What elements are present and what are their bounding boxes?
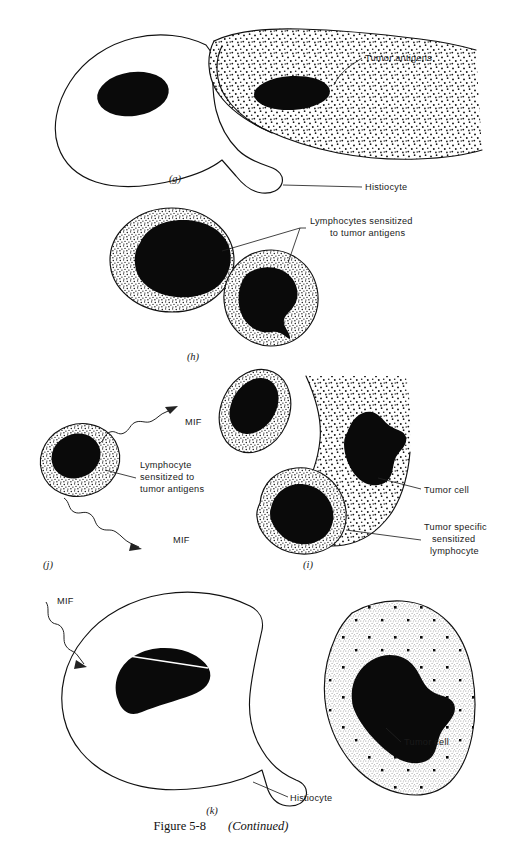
panel-j-mif-arrowhead-upper <box>165 406 178 414</box>
panel-g-histiocyte-leader <box>283 185 362 187</box>
panel-h-leader-1 <box>222 228 300 251</box>
label-tumor-cell-i: Tumor cell <box>424 485 469 495</box>
panel-j-mif-arrowhead-lower <box>129 543 142 551</box>
label-lymphocyte-sensitized-line2: sensitized to <box>140 472 194 482</box>
panel-g-tumor-cytoplasm <box>200 20 500 170</box>
panel-letter-k: (k) <box>206 805 218 817</box>
caption-continued: (Continued) <box>228 819 288 833</box>
panel-k: MIF Tumor cell Histiocyte (k) <box>46 592 480 817</box>
label-tumor-specific-line1: Tumor specific <box>424 522 487 532</box>
label-lymphocytes-sensitized-line2: to tumor antigens <box>330 228 405 238</box>
label-tumor-antigens: Tumor antigens <box>365 53 432 63</box>
label-mif-k: MIF <box>57 596 74 606</box>
panel-j-mif-arrow-lower <box>64 498 139 547</box>
panel-i: Tumor cell Tumor specific sensitized lym… <box>206 358 487 571</box>
label-mif-lower: MIF <box>173 535 190 545</box>
label-lymphocytes-sensitized-line1: Lymphocytes sensitized <box>310 216 413 226</box>
label-mif-upper: MIF <box>185 417 202 427</box>
panel-j: MIF MIF Lymphocyte sensitized to tumor a… <box>31 406 205 571</box>
panel-k-histiocyte-outline <box>62 592 307 806</box>
figure-5-8-continued: Tumor antigens Histiocyte (g) Lymphocyte… <box>0 0 506 846</box>
panel-letter-h: (h) <box>187 351 200 363</box>
label-histiocyte: Histiocyte <box>365 182 407 192</box>
panel-letter-g: (g) <box>169 173 182 185</box>
figure-caption: Figure 5-8 (Continued) <box>154 819 289 833</box>
label-tumor-specific-line2: sensitized <box>432 534 475 544</box>
figure-canvas: Tumor antigens Histiocyte (g) Lymphocyte… <box>0 0 506 846</box>
panel-h-lymphocyte-1-nucleus <box>135 220 231 297</box>
panel-h: Lymphocytes sensitized to tumor antigens… <box>100 200 413 363</box>
label-lymphocyte-sensitized-line3: tumor antigens <box>140 484 204 494</box>
panel-letter-j: (j) <box>43 559 53 571</box>
caption-figure-number: Figure 5-8 <box>154 819 206 833</box>
panel-letter-i: (i) <box>303 559 313 571</box>
label-lymphocyte-sensitized-line1: Lymphocyte <box>140 460 192 470</box>
label-tumor-specific-line3: lymphocyte <box>430 546 479 556</box>
label-tumor-cell-k: Tumor cell <box>404 737 449 747</box>
label-histiocyte-k: Histiocyte <box>290 793 332 803</box>
panel-g: Tumor antigens Histiocyte (g) <box>55 20 500 193</box>
